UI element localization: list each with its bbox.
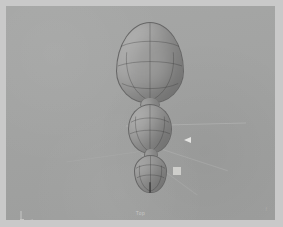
viewport-label: Top bbox=[6, 210, 275, 216]
mesh-object-egg-large[interactable] bbox=[116, 22, 184, 104]
transform-handle-square[interactable] bbox=[173, 167, 181, 175]
mesh-stem bbox=[149, 182, 151, 193]
status-glyph: f bbox=[266, 206, 267, 212]
three-d-viewport[interactable]: Top f bbox=[6, 6, 275, 220]
application-window: Top f bbox=[0, 0, 283, 227]
construction-line bbox=[66, 151, 143, 163]
wireframe-overlay-egg-large bbox=[117, 23, 183, 103]
wireframe-overlay-ellipsoid-mid bbox=[129, 105, 171, 153]
mesh-object-ellipsoid-mid[interactable] bbox=[128, 104, 172, 154]
move-gizmo-arrow-icon[interactable] bbox=[184, 137, 191, 143]
